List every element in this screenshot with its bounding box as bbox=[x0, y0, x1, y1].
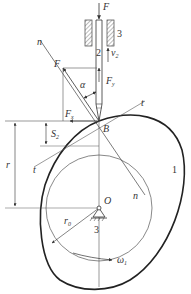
label-frame-number: 3 bbox=[94, 224, 99, 235]
label-displacement: S2 bbox=[51, 128, 59, 140]
label-force-normal: F bbox=[53, 58, 61, 69]
label-tangent-right: t bbox=[141, 97, 144, 108]
angular-velocity-arrow bbox=[73, 253, 112, 260]
label-normal-bottom: n bbox=[133, 190, 138, 201]
label-force-x: Fx bbox=[64, 108, 74, 120]
cam-profile bbox=[40, 115, 184, 289]
label-velocity: v2 bbox=[111, 47, 118, 59]
guide-block-left bbox=[85, 20, 92, 46]
label-cam-number: 1 bbox=[172, 164, 177, 175]
guide-block-right bbox=[107, 20, 114, 46]
label-center-O: O bbox=[104, 195, 111, 206]
label-radius: r bbox=[6, 159, 10, 170]
label-force-y: Fy bbox=[105, 75, 115, 87]
label-force-top: F bbox=[102, 1, 110, 12]
label-guide-number: 3 bbox=[117, 28, 122, 39]
label-tangent-left: t bbox=[33, 164, 36, 175]
base-radius-arrow bbox=[52, 208, 99, 243]
label-base-radius: r0 bbox=[64, 215, 71, 227]
label-contact-point: B bbox=[103, 123, 109, 134]
cam-mechanism-diagram: F 3 2 v2 n F α Fy Fx t B S2 t r 1 n O r0… bbox=[0, 0, 191, 294]
pressure-angle-arc bbox=[84, 92, 96, 98]
label-pressure-angle: α bbox=[80, 79, 86, 90]
label-normal-top: n bbox=[37, 36, 42, 47]
label-follower-number: 2 bbox=[96, 47, 101, 58]
label-angular-velocity: ω1 bbox=[117, 254, 127, 266]
